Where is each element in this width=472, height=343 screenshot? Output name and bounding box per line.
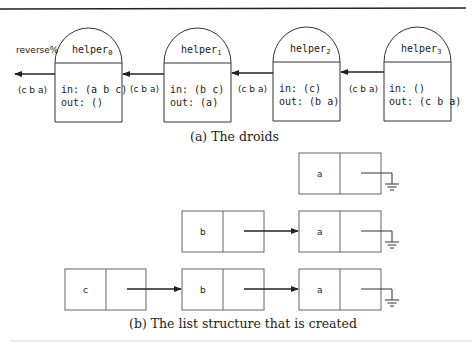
list-row-1: a xyxy=(299,153,399,194)
pass-value-2: (c b a) xyxy=(238,84,267,94)
droid-title: helper2 xyxy=(290,43,330,56)
droid-title: helper0 xyxy=(72,44,112,57)
droid-title: helper1 xyxy=(181,44,221,57)
droid-in: in: (b c) xyxy=(170,84,224,95)
cons-car: b xyxy=(200,227,206,237)
top-rule xyxy=(0,8,466,9)
caption-b: (b) The list structure that is created xyxy=(129,316,357,331)
cons-car: a xyxy=(317,169,323,179)
droid-1: helper1 in: (b c) out: (a) xyxy=(164,28,231,122)
droid-out: out: () xyxy=(61,97,103,108)
droid-out: out: (a) xyxy=(170,97,218,108)
droid-2: helper2 in: (c) out: (b a) xyxy=(273,27,340,121)
figure-canvas: helper0 in: (a b c) out: () helper1 in: … xyxy=(0,0,472,343)
droid-title: helper3 xyxy=(401,43,441,56)
cons-car: b xyxy=(200,285,206,295)
droid-out: out: (c b a) xyxy=(389,96,461,107)
cons-car: a xyxy=(317,285,323,295)
droid-0: helper0 in: (a b c) out: () xyxy=(55,28,127,122)
pass-value-1: (c b a) xyxy=(130,84,159,94)
droid-in: in: (a b c) xyxy=(61,84,127,95)
list-row-3: c b a xyxy=(65,269,399,310)
output-value: (c b a) xyxy=(18,85,47,95)
pass-value-3: (c b a) xyxy=(349,84,378,94)
output-label: reverse% xyxy=(16,45,59,55)
cons-car: a xyxy=(317,227,323,237)
droid-in: in: () xyxy=(389,83,425,94)
caption-a: (a) The droids xyxy=(190,129,279,144)
droid-3: helper3 in: () out: (c b a) xyxy=(384,27,461,121)
droid-out: out: (b a) xyxy=(279,96,339,107)
cons-car: c xyxy=(83,285,88,295)
droid-in: in: (c) xyxy=(279,83,321,94)
list-row-2: b a xyxy=(182,211,399,252)
